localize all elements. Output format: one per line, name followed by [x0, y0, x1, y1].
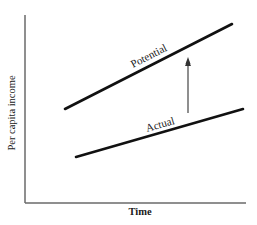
y-axis-label: Per capita income [6, 75, 17, 151]
x-axis-label: Time [128, 206, 151, 217]
income-gap-chart: Potential Actual Per capita income Time [0, 0, 257, 225]
potential-line [65, 24, 232, 109]
arrow-up-icon [186, 57, 191, 64]
actual-line [76, 109, 243, 157]
